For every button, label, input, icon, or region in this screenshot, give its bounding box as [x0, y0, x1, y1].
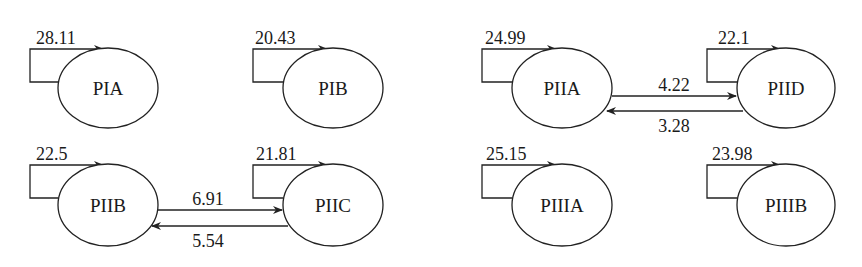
node-piia: PIIA 24.99	[482, 28, 612, 128]
node-piic: PIIC 21.81	[253, 144, 383, 246]
node-piiia: PIIIA 25.15	[482, 144, 612, 246]
self-loop-label: 28.11	[36, 28, 76, 48]
node-label: PIID	[768, 78, 805, 99]
node-pib: PIB 20.43	[253, 28, 383, 128]
edge-label: 5.54	[192, 231, 224, 251]
node-label: PIIA	[544, 78, 581, 99]
self-loop-label: 22.1	[718, 28, 750, 48]
edge-piid-to-piia: 3.28	[607, 111, 743, 136]
node-piid: PIID 22.1	[707, 28, 835, 128]
edge-piia-to-piid: 4.22	[612, 75, 736, 96]
node-label: PIA	[93, 78, 124, 99]
node-label: PIIIA	[540, 195, 584, 216]
node-label: PIIC	[315, 195, 351, 216]
edge-label: 3.28	[658, 116, 690, 136]
self-loop-label: 20.43	[255, 28, 296, 48]
self-loop-label: 22.5	[36, 144, 68, 164]
self-loop-label: 21.81	[256, 144, 297, 164]
edge-label: 6.91	[192, 189, 224, 209]
edge-piib-to-piic: 6.91	[158, 189, 282, 210]
node-label: PIIIB	[765, 195, 807, 216]
node-piib: PIIB 22.5	[30, 144, 158, 246]
state-transition-diagram: PIA 28.11 PIB 20.43 PIIA 24.99 PIID 22.1…	[0, 0, 862, 267]
node-piiib: PIIIB 23.98	[707, 144, 835, 246]
self-loop-label: 24.99	[485, 28, 526, 48]
edge-piic-to-piib: 5.54	[152, 226, 288, 251]
self-loop-label: 23.98	[712, 144, 753, 164]
node-label: PIIB	[90, 195, 126, 216]
node-label: PIB	[318, 78, 348, 99]
self-loop-label: 25.15	[486, 144, 527, 164]
edge-label: 4.22	[658, 75, 690, 95]
node-pia: PIA 28.11	[30, 28, 158, 128]
